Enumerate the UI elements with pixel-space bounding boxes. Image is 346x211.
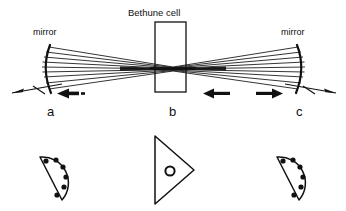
profile-dot: [290, 157, 295, 162]
profile-dot: [61, 184, 66, 189]
ray: [173, 57, 303, 68]
bethune-cell-figure: Bethune cell mirror mirror a b c: [0, 0, 346, 211]
propagation-arrow-c-shaft: [256, 92, 272, 95]
propagation-arrow-a: [57, 89, 85, 99]
bethune-cell-rectangle: [155, 22, 186, 92]
ray: [46, 71, 173, 84]
propagation-arrow-c-head: [272, 89, 283, 99]
propagation-arrow-a-head: [57, 89, 69, 99]
ray: [173, 71, 301, 84]
label-mirror-left: mirror: [33, 28, 57, 37]
figure-title: Bethune cell: [128, 8, 180, 18]
profile-dot: [54, 192, 59, 197]
profile-dot: [60, 164, 65, 169]
ray: [173, 47, 298, 67]
propagation-arrow-a-shaft: [69, 92, 79, 96]
label-stage-c: c: [296, 105, 303, 118]
beam-profile-center: [155, 136, 194, 204]
exit-ray-right-cross: [303, 86, 315, 94]
exit-ray-right: [285, 84, 336, 94]
label-stage-a: a: [47, 105, 54, 118]
beam-profile-left: [40, 157, 69, 200]
label-mirror-right: mirror: [281, 28, 305, 37]
profile-dot: [291, 192, 296, 197]
profile-dot: [300, 174, 305, 179]
profile-dot: [280, 158, 285, 163]
beam-waist-center: [150, 67, 196, 70]
ray: [44, 57, 173, 68]
profile-dot: [53, 157, 58, 162]
propagation-arrow-a-dash: [81, 92, 85, 95]
profile-ring: [165, 166, 174, 175]
propagation-arrow-b: [203, 89, 230, 99]
label-stage-b: b: [169, 105, 176, 118]
profile-dot: [298, 184, 303, 189]
profile-dot: [43, 158, 48, 163]
beam-profile-right: [277, 157, 306, 200]
propagation-arrow-b-shaft: [214, 92, 230, 95]
propagation-arrow-c: [256, 89, 283, 99]
profile-dot: [63, 174, 68, 179]
propagation-arrow-b-head: [203, 89, 214, 99]
exit-ray-left: [12, 84, 62, 94]
profile-dot: [297, 164, 302, 169]
